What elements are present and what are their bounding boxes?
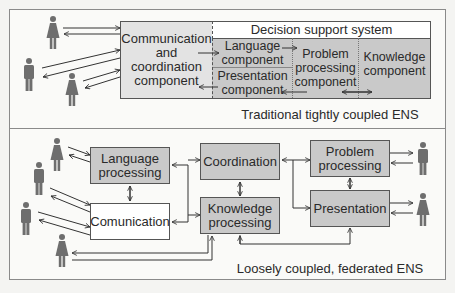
user-woman-icon	[56, 234, 69, 267]
user-man-icon	[24, 58, 34, 91]
user-man-icon	[418, 142, 428, 175]
user-man-icon	[21, 202, 31, 235]
user-woman-icon	[417, 193, 430, 226]
user-woman-icon	[66, 73, 79, 106]
user-woman-icon	[47, 16, 60, 49]
user-man-icon	[34, 162, 44, 195]
connector-layer	[0, 0, 455, 293]
user-woman-icon	[51, 138, 64, 171]
